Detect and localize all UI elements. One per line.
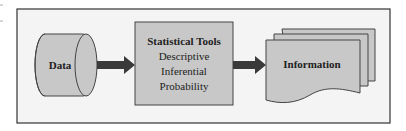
data-label: Data xyxy=(49,59,72,71)
tools-title: Statistical Tools xyxy=(147,35,221,47)
tools-item-inferential: Inferential xyxy=(161,65,207,77)
statistical-tools-box: Statistical Tools Descriptive Inferentia… xyxy=(135,22,233,105)
data-cylinder: Data xyxy=(35,34,97,96)
statistics-flow-diagram: Data Statistical Tools Descriptive Infer… xyxy=(0,0,406,131)
information-label: Information xyxy=(283,58,340,70)
tools-item-probability: Probability xyxy=(160,80,209,92)
tools-item-descriptive: Descriptive xyxy=(159,50,210,62)
